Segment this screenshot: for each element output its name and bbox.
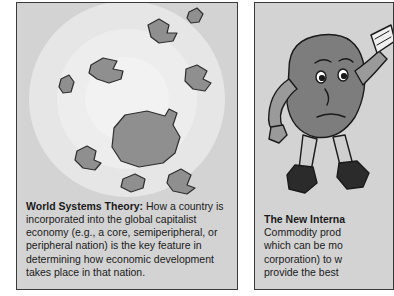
caption-term: World Systems Theory:	[26, 200, 143, 212]
world-systems-illustration	[17, 3, 237, 199]
caption-line-0: The New Interna	[264, 213, 384, 226]
caption-line-3: corporation) to w	[264, 253, 384, 266]
worker-cartoon-illustration	[255, 3, 393, 199]
worker-figure-icon	[259, 17, 393, 199]
landmass-group-icon	[17, 3, 237, 199]
panel-world-systems-theory: World Systems Theory: How a country is i…	[16, 2, 238, 290]
caption-line-2: which can be mo	[264, 239, 384, 252]
caption-line-1: Commodity prod	[264, 226, 384, 239]
panel-new-international-division-of-labor: The New Interna Commodity prod which can…	[254, 2, 394, 290]
caption-term: The New Interna	[264, 213, 345, 225]
caption-text: World Systems Theory: How a country is i…	[26, 200, 228, 279]
caption-world-systems-theory: World Systems Theory: How a country is i…	[17, 192, 237, 289]
caption-new-international-division-of-labor: The New Interna Commodity prod which can…	[255, 205, 393, 289]
caption-line-4: provide the best	[264, 266, 384, 279]
